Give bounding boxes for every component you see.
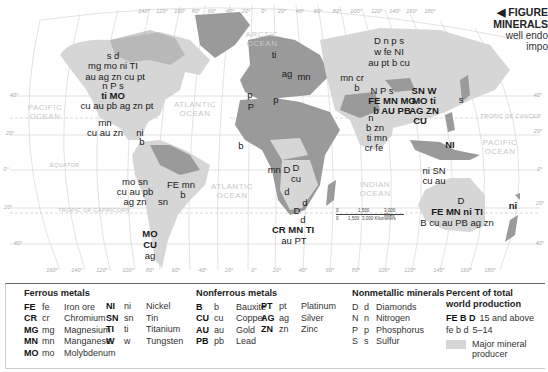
legend-producer: Major mineral producer (446, 339, 534, 359)
lon-label: 140° (138, 8, 149, 14)
scale-km-3000: 3,000 Kilometers (362, 216, 396, 221)
legend-item: CRcrChromium (24, 313, 116, 325)
lon-label: 60° (208, 8, 216, 14)
mineral-label-central-africa: cu (291, 173, 301, 184)
mineral-label-central-africa: D (293, 162, 300, 173)
legend-high-share: FE B D15 and above (446, 313, 534, 325)
legend-nonferrous-2: PTptPlatinum AGagSilver ZNznZinc (261, 301, 336, 336)
mineral-label-angola: d (284, 186, 289, 197)
tropic-cancer-label: TROPIC OF CANCER (480, 113, 541, 119)
figure-heading: MINERALS (493, 18, 548, 30)
legend-ferrous: Ferrous metals FEfeIron ore CRcrChromium… (24, 288, 116, 360)
producer-label: producer (472, 349, 527, 359)
lon-label: 100° (350, 8, 361, 14)
mineral-label-bolivia: sn (158, 196, 168, 207)
scale-miles-0: 0 (336, 208, 339, 213)
lon-label: 140° (389, 8, 400, 14)
lon-label: 100° (122, 267, 133, 273)
lon-label: 140° (71, 267, 82, 273)
legend-nonmetallic: Nonmetallic minerals DdDiamonds NnNitrog… (352, 288, 444, 348)
tropic-capricorn-label: TROPIC OF CAPRICORN (58, 207, 130, 213)
pacific-ocean-east-label: PACIFIC OCEAN (25, 103, 65, 121)
lon-label: 160° (460, 267, 471, 273)
lon-label: 0° (261, 8, 266, 14)
mineral-label-russia: au pt b cu (368, 57, 410, 68)
legend-item: DdDiamonds (352, 302, 444, 314)
mineral-label-russia: w fe NI (374, 46, 404, 57)
mineral-label-europe: mn (297, 71, 310, 82)
lon-label: 80° (146, 267, 154, 273)
lon-label: 60° (326, 267, 334, 273)
legend-item: TItiTitanium (106, 324, 183, 336)
legend-item: PTptPlatinum (261, 301, 336, 313)
legend-item: PpPhosphorus (352, 325, 444, 337)
mineral-label-mexico: cu au zn (87, 127, 123, 138)
lon-label: 100° (378, 267, 389, 273)
lat-label: 20° (536, 200, 544, 206)
lon-label: 160° (406, 8, 417, 14)
mineral-label-chile: MO (142, 228, 157, 239)
scale-km-1500: 1,500 (348, 216, 359, 221)
mineral-label-kazakhstan: b (354, 82, 359, 93)
lat-label: 40° (10, 92, 18, 98)
figure-caption-text: well endo (493, 30, 548, 41)
mineral-label-russia: D n p s (374, 35, 404, 46)
legend-item: AGagSilver (261, 313, 336, 325)
mineral-label-botswana: d (302, 197, 307, 208)
map-legend: Ferrous metals FEfeIron ore CRcrChromium… (5, 283, 545, 369)
mineral-label-new-caledonia: ni (509, 200, 517, 211)
legend-ferrous-2: NIniNickel SNsnTin TItiTitanium WwTungst… (106, 301, 183, 347)
atlantic-ocean-north-label: ATLANTIC OCEAN (170, 100, 220, 118)
legend-item: MNmnManganese (24, 336, 116, 348)
legend-item: WwTungsten (106, 336, 183, 348)
lon-label: 20° (278, 8, 286, 14)
mineral-label-china: CU (413, 115, 427, 126)
lat-label: 0° (537, 166, 542, 172)
lat-label: 20° (6, 130, 14, 136)
legend-item: MGmgMagnesium (24, 325, 116, 337)
legend-nonmetallic-title: Nonmetallic minerals (352, 288, 444, 300)
lat-label: 20° (534, 128, 542, 134)
scale-miles-1500: 1,500 (358, 208, 369, 213)
lat-label: 40° (14, 240, 22, 246)
lon-label: 40° (299, 267, 307, 273)
lon-label: 80° (333, 8, 341, 14)
mineral-label-central-africa: mn D (268, 164, 291, 175)
atlantic-ocean-south-label: ATLANTIC OCEAN (207, 182, 257, 200)
mineral-label-india: cr fe (365, 142, 383, 153)
mineral-label-canada: mg mo ni TI (88, 60, 138, 71)
mineral-label-japan: s (459, 94, 464, 105)
legend-low-share: fe b d5–14 (446, 325, 534, 337)
lon-label: 40° (296, 8, 304, 14)
equator-label: EQUATOR (50, 162, 80, 168)
legend-nonferrous-title: Nonferrous metals (196, 288, 277, 300)
figure-caption: ◀ FIGURE MINERALS well endo impo (493, 6, 548, 52)
lon-label: 80° (192, 8, 200, 14)
scale-km-0: 0 (336, 216, 339, 221)
legend-percent-title: world production (446, 299, 534, 310)
lat-label: 40° (536, 240, 544, 246)
mineral-label-philippines: NI (445, 139, 455, 150)
mineral-label-west-africa: b (238, 140, 243, 151)
lon-label: 40° (226, 8, 234, 14)
mineral-label-chile: CU (143, 239, 157, 250)
lon-label: 20° (225, 267, 233, 273)
lat-label: 20° (4, 204, 12, 210)
legend-item: PBpbLead (196, 336, 277, 348)
mineral-label-spain: p (247, 89, 252, 100)
lon-label: 60° (314, 8, 322, 14)
legend-ferrous-title: Ferrous metals (24, 288, 116, 300)
scale-bar: 0 1,500 3,000 Miles 0 1,500 3,000 Kilome… (336, 208, 406, 224)
mineral-label-indonesia: cu au (422, 175, 445, 186)
lon-label: 40° (199, 267, 207, 273)
legend-item: ZNznZinc (261, 324, 336, 336)
lon-label: 0° (251, 267, 256, 273)
mineral-label-australia: B cu au PB ag zn (420, 217, 493, 228)
lon-label: 180° (424, 8, 435, 14)
lon-label: 80° (352, 267, 360, 273)
legend-item: NIniNickel (106, 301, 183, 313)
lon-label: 140° (433, 267, 444, 273)
producer-label: Major mineral (472, 339, 527, 349)
mineral-label-scandinavia: ti (272, 49, 277, 60)
mineral-label-europe: ag (282, 68, 293, 79)
